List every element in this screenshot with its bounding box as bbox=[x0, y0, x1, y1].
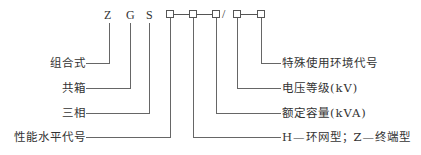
code-box-environment bbox=[257, 10, 265, 18]
label-combined: 组合式 bbox=[50, 56, 86, 70]
leader-line bbox=[193, 137, 281, 138]
code-letter-z: Z bbox=[104, 9, 111, 21]
leader-line bbox=[130, 23, 131, 89]
leader-line bbox=[86, 113, 150, 114]
label-voltage-level: 电压等级(kV) bbox=[282, 81, 358, 95]
leader-line bbox=[237, 88, 281, 89]
leader-line bbox=[216, 18, 217, 114]
code-box-voltage bbox=[233, 10, 241, 18]
leader-line bbox=[216, 113, 281, 114]
code-box-capacity bbox=[212, 10, 220, 18]
leader-line bbox=[86, 63, 110, 64]
code-dash bbox=[174, 14, 189, 15]
label-performance-level: 性能水平代号 bbox=[6, 130, 86, 144]
code-slash: / bbox=[222, 7, 225, 22]
code-dash bbox=[241, 14, 257, 15]
leader-line bbox=[149, 23, 150, 114]
leader-line bbox=[261, 63, 281, 64]
code-dash bbox=[197, 14, 212, 15]
label-ring-terminal-type: H—环网型；Z—终端型 bbox=[282, 130, 411, 144]
leader-line bbox=[109, 23, 110, 64]
leader-line bbox=[170, 18, 171, 138]
label-common-box: 共箱 bbox=[50, 81, 86, 95]
leader-line bbox=[193, 18, 194, 138]
code-box-performance bbox=[166, 10, 174, 18]
leader-line bbox=[237, 18, 238, 89]
label-three-phase: 三相 bbox=[50, 106, 86, 120]
code-letter-g: G bbox=[126, 9, 135, 21]
leader-line bbox=[86, 137, 171, 138]
code-box-type bbox=[189, 10, 197, 18]
leader-line bbox=[86, 88, 131, 89]
label-special-environment: 特殊使用环境代号 bbox=[282, 56, 378, 70]
label-rated-capacity: 额定容量(kVA) bbox=[282, 106, 367, 120]
leader-line bbox=[261, 18, 262, 64]
code-letter-s: S bbox=[146, 9, 153, 21]
